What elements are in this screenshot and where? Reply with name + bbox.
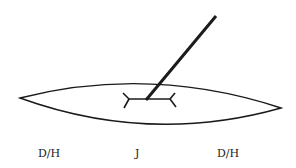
diagram-canvas bbox=[0, 0, 296, 168]
angled-rod bbox=[146, 16, 216, 100]
lens-outline bbox=[20, 84, 281, 125]
label-center: J bbox=[135, 148, 139, 160]
label-left: D/H bbox=[38, 148, 60, 160]
label-right: D/H bbox=[217, 148, 239, 160]
